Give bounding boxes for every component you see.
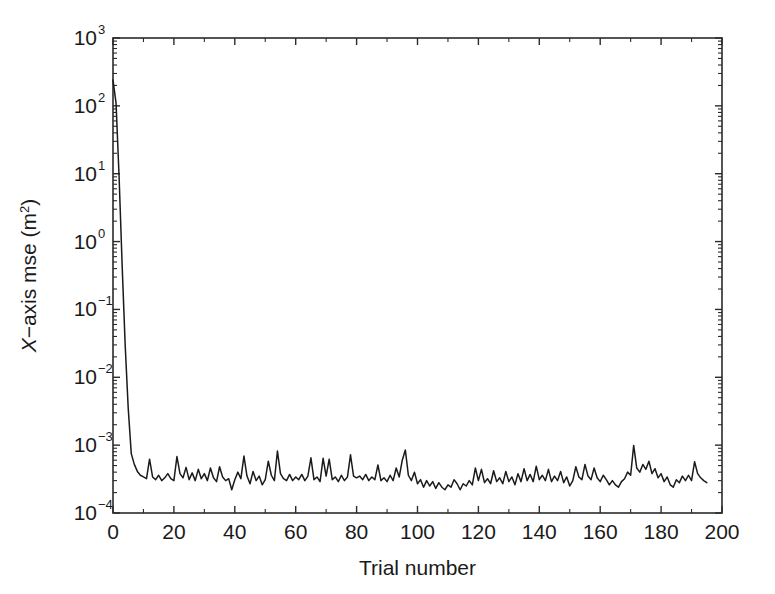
x-axis-title: Trial number	[359, 556, 476, 579]
x-tick-label-0: 0	[107, 520, 119, 543]
y-tick-mantissa: 10	[74, 26, 97, 49]
y-tick-exponent: 0	[98, 226, 105, 241]
x-tick-label-140: 140	[522, 520, 557, 543]
y-tick-mantissa: 10	[74, 297, 97, 320]
y-tick-label-6: 102	[74, 90, 106, 117]
y-tick-exponent: 2	[98, 90, 105, 105]
x-tick-label-180: 180	[644, 520, 679, 543]
data-series-line-0	[113, 80, 707, 490]
y-tick-mantissa: 10	[74, 365, 97, 388]
y-tick-mantissa: 10	[74, 501, 97, 524]
plot-frame	[113, 38, 722, 513]
y-tick-mantissa: 10	[74, 230, 97, 253]
data-series-group	[113, 80, 707, 490]
y-tick-mantissa: 10	[74, 162, 97, 185]
tick-marks-group	[113, 38, 722, 513]
figure-container: 02040608010012014016018020010−410−310−21…	[0, 0, 775, 594]
line-chart: 02040608010012014016018020010−410−310−21…	[0, 0, 775, 594]
y-axis-title: X−axis mse (m2)	[17, 199, 41, 354]
x-tick-label-200: 200	[704, 520, 739, 543]
y-tick-mantissa: 10	[74, 94, 97, 117]
x-tick-label-100: 100	[400, 520, 435, 543]
x-tick-label-160: 160	[583, 520, 618, 543]
y-tick-exponent: −2	[98, 361, 113, 376]
y-tick-exponent: −4	[98, 497, 113, 512]
y-axis-title-prefix: X	[17, 337, 40, 353]
y-tick-label-4: 100	[74, 226, 106, 253]
axes-group	[113, 38, 722, 513]
y-tick-label-2: 10−2	[74, 361, 113, 388]
y-tick-exponent: 1	[98, 158, 105, 173]
y-axis-title-body: −axis mse (m	[17, 213, 40, 338]
y-tick-label-1: 10−3	[74, 429, 113, 456]
y-axis-title-text: X−axis mse (m2)	[17, 199, 41, 354]
y-tick-exponent: −3	[98, 429, 113, 444]
y-axis-title-exponent: 2	[17, 206, 32, 213]
y-tick-label-7: 103	[74, 22, 106, 49]
y-tick-label-5: 101	[74, 158, 106, 185]
y-tick-mantissa: 10	[74, 433, 97, 456]
x-tick-label-80: 80	[345, 520, 368, 543]
y-tick-exponent: 3	[98, 22, 105, 37]
x-tick-label-20: 20	[162, 520, 185, 543]
y-tick-exponent: −1	[98, 293, 113, 308]
y-axis-title-suffix: )	[17, 199, 40, 206]
x-tick-label-60: 60	[284, 520, 307, 543]
y-tick-label-3: 10−1	[74, 293, 113, 320]
x-tick-label-120: 120	[461, 520, 496, 543]
x-tick-label-40: 40	[223, 520, 246, 543]
